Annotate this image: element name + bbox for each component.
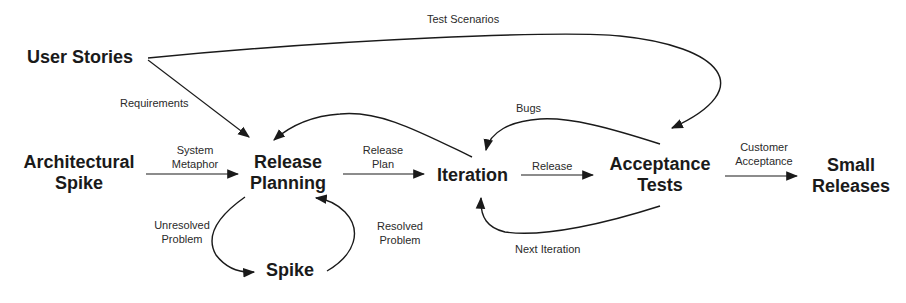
node-label: User Stories	[27, 47, 133, 67]
node-label-line-2: Planning	[246, 173, 330, 194]
label-resolved-problem: Resolved Problem	[367, 219, 433, 247]
node-small-releases: Small Releases	[810, 155, 892, 197]
label-line-2: Plan	[356, 157, 410, 171]
label-line-1: Unresolved	[147, 218, 217, 232]
node-iteration: Iteration	[437, 165, 508, 186]
label-requirements: Requirements	[120, 96, 188, 110]
label-text: Test Scenarios	[427, 13, 499, 25]
label-unresolved-problem: Unresolved Problem	[147, 218, 217, 246]
node-label-line-1: Release	[246, 152, 330, 173]
label-customer-acceptance: Customer Acceptance	[730, 140, 798, 168]
label-text: Next Iteration	[515, 243, 580, 255]
edge-unresolved-problem	[212, 197, 254, 272]
xp-process-diagram: User Stories Architectural Spike Release…	[0, 0, 906, 303]
node-acceptance-tests: Acceptance Tests	[608, 154, 712, 196]
edge-bugs	[486, 119, 660, 150]
label-line-1: System	[160, 143, 230, 157]
label-release: Release	[532, 159, 572, 173]
node-label-line-2: Tests	[608, 175, 712, 196]
label-line-2: Problem	[367, 233, 433, 247]
label-line-2: Acceptance	[730, 154, 798, 168]
label-text: Bugs	[516, 102, 541, 114]
edge-next-iteration	[481, 198, 660, 233]
label-line-1: Resolved	[367, 219, 433, 233]
node-user-stories: User Stories	[27, 47, 133, 68]
edge-test-scenarios	[148, 34, 721, 128]
node-architectural-spike: Architectural Spike	[20, 152, 138, 194]
label-bugs: Bugs	[516, 101, 541, 115]
label-line-2: Problem	[147, 232, 217, 246]
node-label-line-2: Spike	[20, 173, 138, 194]
node-label-line-1: Architectural	[20, 152, 138, 173]
label-line-2: Metaphor	[160, 157, 230, 171]
label-text: Release	[532, 160, 572, 172]
label-line-1: Release	[356, 143, 410, 157]
label-test-scenarios: Test Scenarios	[427, 12, 499, 26]
node-label-line-1: Small	[810, 155, 892, 176]
label-line-1: Customer	[730, 140, 798, 154]
node-label-line-2: Releases	[810, 176, 892, 197]
label-text: Requirements	[120, 97, 188, 109]
node-release-planning: Release Planning	[246, 152, 330, 194]
label-system-metaphor: System Metaphor	[160, 143, 230, 171]
label-next-iteration: Next Iteration	[515, 242, 580, 256]
node-label: Iteration	[437, 165, 508, 185]
node-spike: Spike	[266, 260, 314, 281]
node-label-line-1: Acceptance	[608, 154, 712, 175]
edge-resolved-problem	[316, 198, 354, 271]
node-label: Spike	[266, 260, 314, 280]
label-release-plan: Release Plan	[356, 143, 410, 171]
